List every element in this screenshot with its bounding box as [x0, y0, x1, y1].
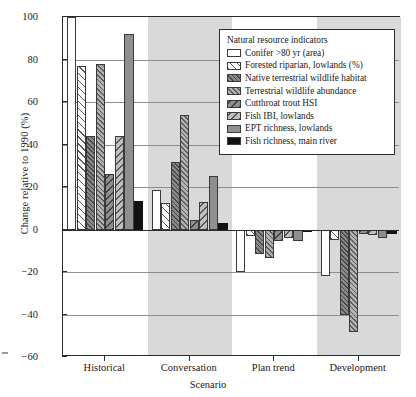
y-tick-label: −20 — [0, 266, 38, 277]
x-tick-label: Plan trend — [252, 362, 295, 373]
bar — [321, 230, 330, 277]
legend-swatch-icon — [227, 100, 241, 108]
bar — [86, 136, 95, 230]
bar — [284, 230, 293, 239]
legend-label: Fish IBI, lowlands — [245, 111, 314, 122]
figure: Change relative to 1990 (%) 100806040200… — [0, 0, 416, 397]
legend-items: Conifer >80 yr (area)Forested riparian, … — [227, 47, 388, 148]
legend-item: Fish richness, main river — [227, 135, 388, 148]
bar — [199, 202, 208, 230]
legend-swatch-icon — [227, 74, 241, 82]
y-tick-label: −40 — [0, 308, 38, 319]
legend-swatch-icon — [227, 137, 241, 145]
legend-title: Natural resource indicators — [227, 35, 388, 45]
bar — [255, 230, 264, 254]
x-tick-mark — [189, 356, 190, 361]
x-tick-label: Historical — [84, 362, 125, 373]
x-tick-label: Development — [329, 362, 386, 373]
bar — [330, 230, 339, 241]
bar — [96, 64, 105, 230]
legend-swatch-icon — [227, 87, 241, 95]
bar — [124, 34, 133, 230]
bar — [134, 201, 143, 230]
bar — [349, 230, 358, 332]
legend-swatch-icon — [227, 112, 241, 120]
bar — [265, 230, 274, 259]
bar — [115, 136, 124, 230]
legend-item: Conifer >80 yr (area) — [227, 47, 388, 60]
legend-swatch-icon — [227, 49, 241, 57]
bar — [340, 230, 349, 315]
bar — [105, 174, 114, 229]
bar — [67, 17, 76, 230]
y-tick-label: 20 — [0, 181, 38, 192]
legend-label: Native terrestrial wildlife habitat — [245, 73, 367, 84]
legend-item: EPT richness, lowlands — [227, 123, 388, 136]
legend-label: Forested riparian, lowlands (%) — [245, 60, 363, 71]
bar — [378, 230, 387, 239]
y-tick-label: 60 — [0, 96, 38, 107]
legend-item: Cutthroat trout HSI — [227, 97, 388, 110]
x-tick-mark — [273, 356, 274, 361]
x-tick-mark — [104, 356, 105, 361]
bar — [293, 230, 302, 242]
bar — [236, 230, 245, 273]
y-tick-label: 0 — [0, 223, 38, 234]
zero-line — [63, 230, 399, 231]
legend-item: Forested riparian, lowlands (%) — [227, 60, 388, 73]
x-tick-mark — [358, 356, 359, 361]
legend-swatch-icon — [227, 125, 241, 133]
legend-label: Cutthroat trout HSI — [245, 98, 317, 109]
legend-label: Fish richness, main river — [245, 136, 337, 147]
bar — [180, 115, 189, 230]
y-tick-mark — [62, 356, 67, 357]
legend-swatch-icon — [227, 62, 241, 70]
legend-item: Fish IBI, lowlands — [227, 110, 388, 123]
y-tick-label: 80 — [0, 53, 38, 64]
y-tick-label: 100 — [0, 11, 38, 22]
legend-label: Terrestrial wildlife abundance — [245, 86, 356, 97]
bar — [209, 176, 218, 229]
legend-label: Conifer >80 yr (area) — [245, 48, 324, 59]
legend-item: Terrestrial wildlife abundance — [227, 85, 388, 98]
bar — [190, 220, 199, 230]
x-tick-label: Conversation — [161, 362, 217, 373]
bar — [274, 230, 283, 242]
legend: Natural resource indicators Conifer >80 … — [219, 29, 395, 155]
bar — [161, 203, 170, 230]
page-edge-mark — [2, 352, 8, 354]
y-tick-label: 40 — [0, 138, 38, 149]
legend-label: EPT richness, lowlands — [245, 123, 332, 134]
bar — [171, 162, 180, 230]
x-axis-title: Scenario — [0, 379, 416, 390]
bar — [77, 66, 86, 230]
bar — [152, 190, 161, 229]
legend-item: Native terrestrial wildlife habitat — [227, 72, 388, 85]
